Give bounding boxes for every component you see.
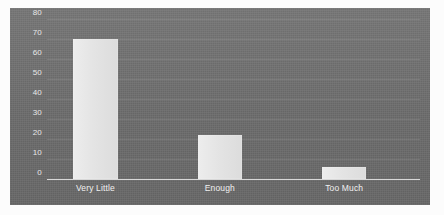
y-axis-tick-label: 40 [33, 89, 42, 97]
x-axis-baseline [47, 179, 420, 180]
gridline [47, 19, 420, 20]
y-axis-tick-label: 50 [33, 69, 42, 77]
x-axis-category-label: Too Much [325, 184, 363, 193]
bar-chart-panel: 01020304050607080Very LittleEnoughToo Mu… [10, 8, 430, 205]
chart-screenshot: 01020304050607080Very LittleEnoughToo Mu… [0, 0, 444, 215]
plot-area: 01020304050607080Very LittleEnoughToo Mu… [47, 20, 420, 180]
bar-too-much [322, 167, 366, 179]
bar-enough [198, 135, 242, 179]
y-axis-tick-label: 60 [33, 49, 42, 57]
y-axis-tick-label: 0 [37, 169, 42, 177]
bar-very-little [73, 39, 117, 179]
y-axis-tick-label: 30 [33, 109, 42, 117]
y-axis-tick-label: 80 [33, 9, 42, 17]
x-axis-category-label: Very Little [76, 184, 115, 193]
y-axis-tick-label: 10 [33, 149, 42, 157]
y-axis-tick-label: 70 [33, 29, 42, 37]
y-axis-tick-label: 20 [33, 129, 42, 137]
x-axis-category-label: Enough [205, 184, 235, 193]
